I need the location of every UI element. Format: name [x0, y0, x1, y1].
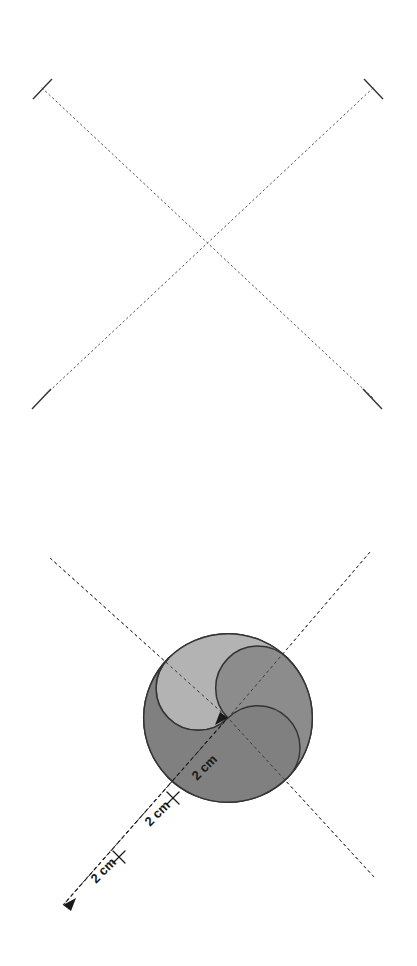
dimension-labels: 2 cm 2 cm 2 cm	[87, 751, 220, 886]
figure-four-blade-pinwheel: 2 cm 2 cm 2 cm	[0, 480, 417, 966]
figure-diagonal-cross-axes	[0, 0, 417, 480]
axes-diagonals	[42, 88, 373, 398]
dimension-label-outer: 2 cm	[87, 854, 119, 886]
pinwheel-canvas: 2 cm 2 cm 2 cm	[0, 480, 417, 966]
page-root: 2 cm 2 cm 2 cm	[0, 0, 417, 966]
tick-top-right	[364, 79, 383, 99]
dimension-arrow-outer	[63, 898, 76, 911]
tick-bottom-right	[363, 389, 382, 409]
axes-only-canvas	[0, 0, 417, 480]
dimension-tick-2	[167, 792, 179, 804]
tick-bottom-left	[32, 389, 51, 409]
tick-top-left	[33, 79, 52, 99]
